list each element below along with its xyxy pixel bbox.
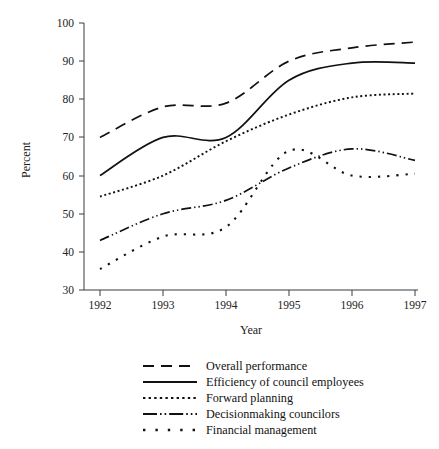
y-tick-label-50: 50 — [63, 208, 75, 220]
series-line-financial-management — [100, 149, 415, 269]
legend-label-overall-performance: Overall performance — [206, 359, 307, 373]
legend-label-forward-planning: Forward planning — [206, 391, 293, 405]
legend-label-financial-management: Financial management — [206, 423, 317, 437]
x-tick-label-1995: 1995 — [278, 299, 301, 311]
series-line-overall-performance — [100, 42, 415, 137]
line-chart-figure: 100 90 80 70 60 50 40 30 1992 1993 1994 … — [0, 0, 439, 449]
x-tick-label-1993: 1993 — [152, 299, 175, 311]
x-axis-title: Year — [240, 323, 262, 337]
x-tick-label-1994: 1994 — [215, 299, 238, 311]
legend-label-decisionmaking-councilors: Decisionmaking councilors — [206, 407, 340, 421]
chart-canvas: 100 90 80 70 60 50 40 30 1992 1993 1994 … — [0, 0, 439, 449]
series-group — [100, 42, 415, 269]
x-axis-ticks — [100, 290, 415, 296]
chart-legend: Overall performance Efficiency of counci… — [143, 359, 364, 437]
x-tick-label-1997: 1997 — [404, 299, 427, 311]
y-tick-label-30: 30 — [63, 284, 75, 296]
y-tick-label-70: 70 — [63, 131, 75, 143]
y-tick-label-90: 90 — [63, 55, 75, 67]
series-line-decisionmaking-councilors — [100, 149, 415, 241]
series-line-efficiency-of-council-employees — [100, 62, 415, 176]
y-tick-label-40: 40 — [63, 246, 75, 258]
y-axis-ticks — [79, 23, 84, 290]
x-tick-label-1996: 1996 — [341, 299, 364, 311]
y-axis-title: Percent — [19, 141, 33, 178]
y-tick-label-80: 80 — [63, 93, 75, 105]
x-tick-label-1992: 1992 — [89, 299, 112, 311]
y-tick-label-100: 100 — [57, 17, 75, 29]
y-tick-label-60: 60 — [63, 170, 75, 182]
legend-label-efficiency-of-council-employees: Efficiency of council employees — [206, 375, 364, 389]
